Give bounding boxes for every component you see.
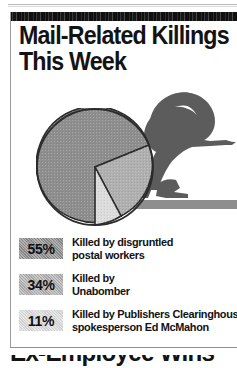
legend-swatch-34: 34% (19, 274, 63, 295)
legend-label-11-line-2: spokesperson Ed McMahon (72, 321, 237, 334)
legend-swatch-55: 55% (19, 238, 63, 259)
bottom-divider-rule (10, 347, 237, 348)
pie-chart (36, 108, 154, 226)
legend-label-34-line-2: Unabomber (72, 285, 130, 298)
top-divider-rule (8, 4, 237, 5)
chart-area (12, 80, 237, 232)
legend-item: 34% Killed by Unabomber (19, 272, 237, 300)
chart-legend: 55% Killed by disgruntled postal workers… (19, 236, 237, 336)
infographic-module: Mail-Related Killings This Week (0, 0, 237, 368)
legend-label-11-line-1: Killed by Publishers Clearinghouse (72, 308, 237, 321)
legend-label-55-line-1: Killed by disgruntled (72, 236, 173, 249)
legend-label-34: Killed by Unabomber (72, 272, 130, 297)
masthead-texture-bar (10, 12, 237, 21)
legend-label-34-line-1: Killed by (72, 272, 130, 285)
legend-item: 55% Killed by disgruntled postal workers (19, 236, 237, 264)
legend-swatch-11: 11% (19, 310, 63, 331)
legend-label-55: Killed by disgruntled postal workers (72, 236, 173, 261)
legend-label-55-line-2: postal workers (72, 249, 173, 262)
legend-label-11: Killed by Publishers Clearinghouse spoke… (72, 308, 237, 333)
headline-line-2: This Week (19, 48, 222, 74)
left-column-rule (10, 12, 11, 348)
headline-line-1: Mail-Related Killings (19, 21, 229, 49)
legend-item: 11% Killed by Publishers Clearinghouse s… (19, 308, 237, 336)
next-headline-clipped: Ex-Employee Wins (10, 355, 237, 368)
top-divider-rule-secondary (8, 6, 237, 7)
page-title: Mail-Related Killings This Week (19, 22, 222, 74)
